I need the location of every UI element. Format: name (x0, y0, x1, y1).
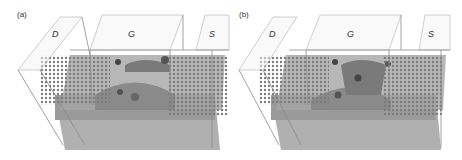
transistor-3d-render-b (231, 0, 462, 160)
panel-a: (a) D G S (0, 0, 231, 160)
panel-label: (b) (239, 10, 249, 19)
drain-label: D (269, 29, 276, 39)
transistor-3d-render-a (0, 0, 231, 160)
gate-label: G (128, 29, 135, 39)
drain-label: D (52, 29, 59, 39)
gate-label: G (347, 29, 354, 39)
source-label: S (428, 29, 434, 39)
panel-label: (a) (17, 10, 27, 19)
source-label: S (209, 29, 215, 39)
panel-b: (b) D G S (231, 0, 462, 160)
